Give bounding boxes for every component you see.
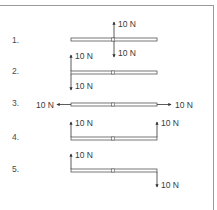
center-marker <box>112 103 115 106</box>
force-magnitude-label: 10 N <box>118 19 136 29</box>
center-marker <box>112 169 115 172</box>
force-row-3: 3.10 N10 N <box>12 98 193 110</box>
center-marker <box>112 71 115 74</box>
force-magnitude-label: 10 N <box>161 118 179 128</box>
force-magnitude-label: 10 N <box>36 100 54 110</box>
force-magnitude-label: 10 N <box>75 118 93 128</box>
row-number-label: 3. <box>12 98 19 108</box>
force-magnitude-label: 10 N <box>118 48 136 58</box>
center-marker <box>112 137 115 140</box>
row-number-label: 5. <box>12 164 19 174</box>
row-number-label: 4. <box>12 132 19 142</box>
force-magnitude-label: 10 N <box>75 81 93 91</box>
force-magnitude-label: 10 N <box>75 51 93 61</box>
force-diagram: 1.10 N10 N2.10 N10 N3.10 N10 N4.10 N10 N… <box>0 0 217 210</box>
force-row-5: 5.10 N10 N <box>12 150 179 190</box>
row-number-label: 1. <box>12 35 19 45</box>
force-row-4: 4.10 N10 N <box>12 118 179 142</box>
force-magnitude-label: 10 N <box>175 100 193 110</box>
force-magnitude-label: 10 N <box>75 150 93 160</box>
force-magnitude-label: 10 N <box>161 180 179 190</box>
row-number-label: 2. <box>12 66 19 76</box>
center-marker <box>112 38 115 41</box>
